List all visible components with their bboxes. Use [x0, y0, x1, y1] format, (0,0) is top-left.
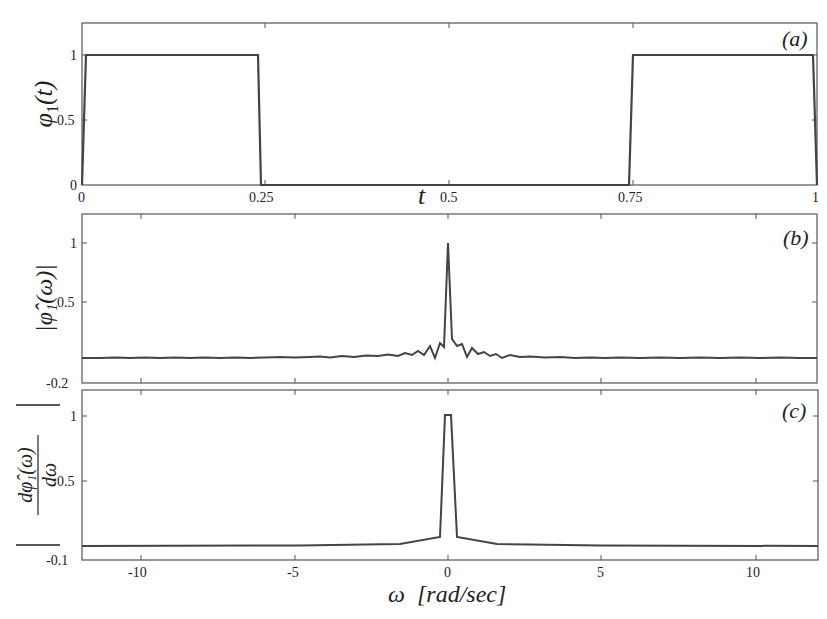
panel-a-ytick-05: 0.5 [57, 113, 75, 128]
svg-text:φ1(t): φ1(t) [29, 81, 61, 128]
figure: (a) 0 0.5 1 0 0.25 0.5 0.75 1 t φ1(t) (b… [0, 0, 827, 619]
panel-c-trace [82, 415, 818, 546]
panel-c-xtick-neg10: -10 [128, 565, 147, 580]
panel-c-xtick-5: 5 [597, 565, 604, 580]
panel-c-xtick-0: 0 [444, 565, 451, 580]
panel-c-xlabel: ω [rad/sec] [388, 581, 506, 607]
svg-text:dφ̂₁(ω): dφ̂₁(ω) [14, 447, 37, 503]
panel-c-xtick-10: 10 [746, 565, 760, 580]
panel-c-ytick-neg01: -0.1 [46, 553, 68, 568]
panel-c-xtick-neg5: -5 [287, 565, 299, 580]
panel-b: (b) 1 0.5 -0.2 |φ̂₁(ω)| [31, 214, 817, 391]
panel-a-xtick-05: 0.5 [440, 190, 458, 205]
panel-b-ytick-1: 1 [70, 236, 77, 251]
panel-a-xtick-025: 0.25 [249, 190, 274, 205]
svg-text:|φ̂₁(ω)|: |φ̂₁(ω)| [31, 264, 57, 332]
panel-b-ylabel: |φ̂₁(ω)| [31, 264, 57, 332]
panel-b-trace [82, 243, 817, 358]
panel-a-ytick-1: 1 [70, 48, 77, 63]
panel-a: (a) 0 0.5 1 0 0.25 0.5 0.75 1 t φ1(t) [29, 23, 819, 210]
panel-a-xtick-1: 1 [812, 190, 819, 205]
panel-a-frame [82, 23, 817, 185]
panel-c-ytick-1: 1 [70, 409, 77, 424]
svg-text:dω: dω [38, 463, 60, 487]
panel-a-xtick-0: 0 [78, 190, 85, 205]
panel-a-xlabel: t [418, 181, 426, 210]
panel-c-ylabel: dφ̂₁(ω) dω [14, 405, 60, 545]
panel-b-ytick-neg02: -0.2 [46, 376, 68, 391]
panel-a-xtick-075: 0.75 [618, 190, 643, 205]
panel-b-ytick-05: 0.5 [57, 295, 75, 310]
panel-a-tag: (a) [782, 26, 808, 51]
panel-a-ticks [82, 23, 817, 185]
panel-a-ytick-0: 0 [70, 178, 77, 193]
panel-b-tag: (b) [783, 225, 809, 250]
panel-a-trace [82, 55, 817, 185]
panel-a-ylabel: φ1(t) [29, 81, 61, 128]
panel-c-tag: (c) [782, 398, 806, 423]
panel-c: (c) 1 0.5 -0.1 -10 -5 0 5 10 ω [rad/sec]… [14, 390, 818, 607]
